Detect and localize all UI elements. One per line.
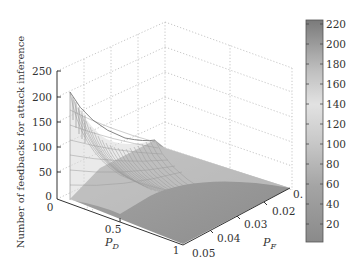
svg-text:0.5: 0.5 xyxy=(105,223,122,235)
svg-text:0.: 0. xyxy=(293,188,303,200)
svg-text:100: 100 xyxy=(32,141,52,153)
svg-text:0: 0 xyxy=(47,201,54,213)
colorbar-tick-labels: 220 200 180 160 140 120 100 80 60 40 20 xyxy=(326,18,346,230)
svg-text:140: 140 xyxy=(326,98,346,110)
svg-text:20: 20 xyxy=(326,218,339,230)
surface-chart: 250 200 150 100 50 0 Number of feedbacks… xyxy=(0,0,359,271)
svg-text:0.02: 0.02 xyxy=(272,205,295,217)
svg-text:160: 160 xyxy=(326,78,346,90)
svg-text:50: 50 xyxy=(39,166,52,178)
svg-text:0.05: 0.05 xyxy=(192,247,215,259)
svg-text:220: 220 xyxy=(326,18,346,30)
svg-text:100: 100 xyxy=(326,138,346,150)
svg-text:1: 1 xyxy=(173,244,180,256)
svg-text:200: 200 xyxy=(32,91,52,103)
svg-text:40: 40 xyxy=(326,198,339,210)
pd-axis-label: PD xyxy=(104,236,119,251)
svg-text:200: 200 xyxy=(326,38,346,50)
svg-text:180: 180 xyxy=(326,58,346,70)
svg-text:0.04: 0.04 xyxy=(217,232,241,244)
z-tick-labels: 250 200 150 100 50 0 xyxy=(32,65,52,202)
svg-text:150: 150 xyxy=(32,116,52,128)
pf-axis-label: PF xyxy=(262,236,276,251)
svg-text:80: 80 xyxy=(326,158,339,170)
svg-text:0.03: 0.03 xyxy=(244,218,267,230)
svg-text:250: 250 xyxy=(32,65,52,77)
colorbar: 220 200 180 160 140 120 100 80 60 40 20 xyxy=(306,18,346,242)
svg-text:60: 60 xyxy=(326,178,339,190)
svg-text:120: 120 xyxy=(326,118,346,130)
z-axis-label: Number of feedbacks for attack inference xyxy=(15,36,26,249)
